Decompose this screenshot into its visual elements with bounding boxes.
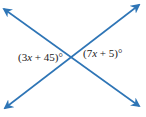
angle-label-right: (7x + 5)° bbox=[83, 48, 122, 59]
label-left-open: (3 bbox=[18, 51, 27, 63]
label-right-open: (7 bbox=[83, 47, 92, 59]
label-left-rest: + 45)° bbox=[32, 51, 63, 63]
angle-label-left: (3x + 45)° bbox=[18, 52, 63, 63]
label-right-rest: + 5)° bbox=[97, 47, 122, 59]
